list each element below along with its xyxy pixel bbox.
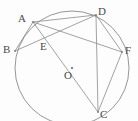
- point-label-o: O: [64, 70, 72, 81]
- chord-ad: [33, 15, 96, 22]
- chord-ac: [33, 22, 98, 112]
- geometry-figure: A B C D E F O: [0, 0, 138, 121]
- chord-dc: [96, 15, 98, 112]
- point-label-c: C: [100, 109, 107, 120]
- chord-df: [96, 15, 122, 52]
- main-circle: [15, 11, 129, 121]
- point-label-f: F: [125, 45, 131, 56]
- vertex-dot-c: [97, 111, 99, 113]
- vertex-dot-d: [95, 14, 97, 16]
- point-label-b: B: [3, 44, 10, 55]
- chord-group: [15, 15, 122, 112]
- point-label-a: A: [18, 13, 26, 24]
- vertex-dot-b: [14, 50, 16, 52]
- point-label-e: E: [40, 41, 47, 52]
- vertex-dot-a: [32, 21, 34, 23]
- chord-fc: [98, 52, 122, 112]
- point-label-d: D: [98, 6, 106, 17]
- vertex-dot-f: [121, 51, 123, 53]
